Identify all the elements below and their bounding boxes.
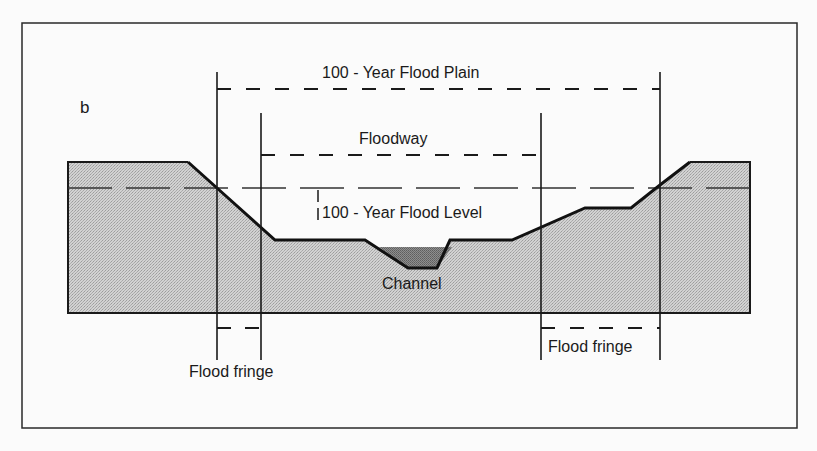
flood-plain-label: 100 - Year Flood Plain — [322, 65, 479, 81]
floodway-label: Floodway — [359, 131, 427, 147]
panel-label: b — [80, 99, 89, 116]
channel-label: Channel — [382, 276, 442, 292]
flood-level-label: 100 - Year Flood Level — [322, 205, 482, 221]
flood-fringe-right-label: Flood fringe — [548, 339, 633, 355]
flood-fringe-left-label: Flood fringe — [189, 364, 274, 380]
